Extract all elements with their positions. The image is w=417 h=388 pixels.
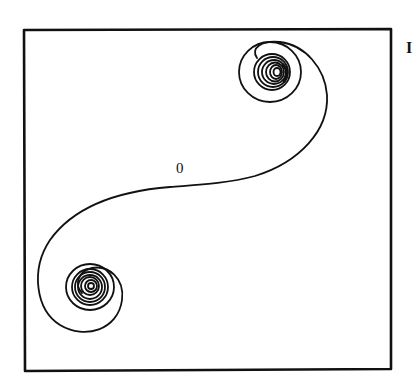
zero-contour-label: 0	[176, 161, 184, 176]
plot-frame	[24, 29, 391, 371]
upper-right-vortex	[239, 42, 301, 102]
lower-left-vortex	[66, 264, 114, 310]
contour-figure: 0 I	[0, 0, 417, 388]
contour-plot-canvas	[0, 0, 417, 388]
panel-label: I	[406, 40, 412, 56]
